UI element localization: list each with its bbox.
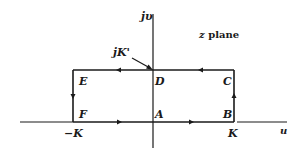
diagram-graphics — [0, 0, 305, 156]
point-label-b: B — [223, 109, 232, 120]
plane-title-word: plane — [208, 29, 239, 40]
point-label-e: E — [79, 76, 87, 87]
horizontal-axis-label: u — [280, 126, 287, 136]
arrow-right-icon — [117, 120, 122, 125]
plane-title: z plane — [199, 30, 239, 40]
tick-label-neg-k: −K — [64, 128, 83, 139]
point-label-a: A — [155, 109, 164, 120]
arrow-left-icon — [116, 68, 121, 73]
vertical-axis-label: jυ — [141, 11, 153, 22]
plane-title-variable: z — [199, 29, 205, 40]
point-label-c: C — [223, 76, 232, 87]
annotation-arrowhead-icon — [146, 65, 153, 71]
point-label-f: F — [79, 109, 87, 120]
arrow-right-icon — [189, 120, 194, 125]
annotation-label: jK' — [113, 47, 130, 58]
arrow-up-icon — [232, 93, 237, 98]
point-label-d: D — [155, 76, 165, 87]
tick-label-pos-k: K — [228, 128, 238, 139]
arrow-left-icon — [198, 68, 203, 73]
z-plane-diagram: jυ u z plane jK' E D C F A B −K K — [0, 0, 305, 156]
arrow-down-icon — [71, 94, 76, 99]
